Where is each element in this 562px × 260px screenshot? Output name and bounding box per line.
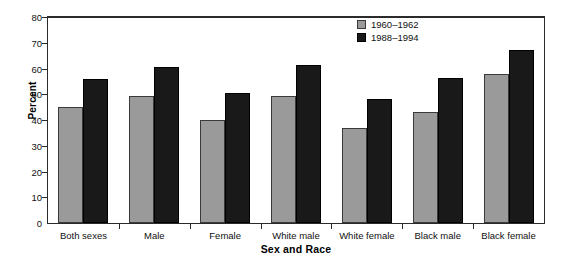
y-tick-mark <box>42 197 47 198</box>
bar-group <box>48 17 119 223</box>
bar <box>296 65 321 223</box>
x-tick-label: Male <box>144 230 165 241</box>
bar <box>129 96 154 223</box>
legend-label: 1960–1962 <box>371 19 419 30</box>
x-tick-label: Both sexes <box>60 230 107 241</box>
x-axis-title: Sex and Race <box>47 243 545 255</box>
x-tick-label: Black male <box>414 230 460 241</box>
bar <box>367 99 392 223</box>
x-tick-mark <box>190 224 191 229</box>
y-tick-label: 40 <box>0 115 42 126</box>
bar <box>225 93 250 223</box>
y-tick-mark <box>42 120 47 121</box>
bar <box>271 96 296 223</box>
bar-chart: Percent 01020304050607080 Both sexesMale… <box>0 0 562 260</box>
y-tick-label: 80 <box>0 12 42 23</box>
bar-group <box>473 17 544 223</box>
x-tick-mark <box>119 224 120 229</box>
bar-group <box>190 17 261 223</box>
legend-item: 1960–1962 <box>357 19 419 30</box>
bar-group <box>261 17 332 223</box>
x-tick-label: Black female <box>481 230 535 241</box>
y-tick-mark <box>42 172 47 173</box>
legend-item: 1988–1994 <box>357 32 419 43</box>
legend-swatch-icon <box>357 33 366 42</box>
bar <box>438 78 463 223</box>
bar-group <box>331 17 402 223</box>
bar <box>58 107 83 223</box>
bar-group <box>402 17 473 223</box>
x-tick-label: Female <box>209 230 241 241</box>
x-tick-mark <box>402 224 403 229</box>
y-tick-label: 20 <box>0 166 42 177</box>
y-tick-label: 50 <box>0 89 42 100</box>
x-tick-label: White male <box>272 230 320 241</box>
y-tick-mark <box>42 17 47 18</box>
y-tick-mark <box>42 146 47 147</box>
y-tick-label: 10 <box>0 192 42 203</box>
x-tick-mark <box>331 224 332 229</box>
y-tick-mark <box>42 69 47 70</box>
bar <box>413 112 438 223</box>
x-tick-mark <box>473 224 474 229</box>
x-tick-mark <box>261 224 262 229</box>
bar <box>484 74 509 223</box>
bar <box>342 128 367 223</box>
y-tick-mark <box>42 43 47 44</box>
y-tick-label: 0 <box>0 218 42 229</box>
bar-group <box>119 17 190 223</box>
y-tick-label: 30 <box>0 140 42 151</box>
bar <box>509 50 534 223</box>
bar <box>200 120 225 223</box>
legend-swatch-icon <box>357 20 366 29</box>
bar <box>154 67 179 223</box>
legend-label: 1988–1994 <box>371 32 419 43</box>
y-tick-mark <box>42 94 47 95</box>
y-tick-label: 60 <box>0 63 42 74</box>
x-tick-label: White female <box>339 230 394 241</box>
bar <box>83 79 108 223</box>
y-tick-label: 70 <box>0 37 42 48</box>
legend: 1960–19621988–1994 <box>357 19 419 45</box>
bars-layer <box>48 17 544 223</box>
